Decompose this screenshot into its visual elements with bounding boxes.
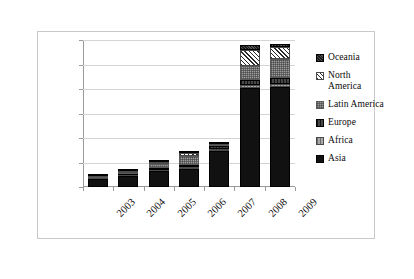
bar-2008: [240, 45, 260, 187]
bar-segment-north-america: [179, 153, 199, 156]
chart-figure: 010,00020,00030,00040,00050,00060,000200…: [0, 0, 414, 279]
bar-2009: [270, 44, 290, 187]
bar-segment-europe: [270, 78, 290, 83]
legend-item-europe[interactable]: Europe: [316, 117, 386, 128]
legend-item-asia[interactable]: Asia: [316, 153, 386, 164]
bar-segment-africa: [270, 84, 290, 87]
bar-2004: [118, 170, 138, 187]
x-axis-tick: [174, 187, 175, 191]
bar-segment-north-america: [240, 50, 260, 66]
bar-segment-latin-america: [179, 156, 199, 165]
bar-segment-asia: [88, 179, 108, 187]
europe-swatch: [316, 119, 324, 127]
bar-segment-oceania: [179, 151, 199, 153]
y-axis-tick: [79, 65, 83, 66]
bar-segment-oceania: [209, 142, 229, 144]
chart-legend: OceaniaNorth AmericaLatin AmericaEuropeA…: [316, 52, 386, 171]
bar-segment-europe: [179, 165, 199, 167]
asia-swatch: [316, 155, 324, 163]
bar-segment-europe: [209, 146, 229, 149]
legend-item-north-america[interactable]: North America: [316, 70, 386, 92]
bar-segment-asia: [179, 169, 199, 187]
bar-2003: [88, 176, 108, 187]
y-axis-tick: [79, 163, 83, 164]
bar-segment-latin-america: [270, 59, 290, 78]
gridline: [83, 138, 295, 139]
bar-segment-oceania: [118, 169, 138, 171]
x-axis-tick: [144, 187, 145, 191]
bar-segment-oceania: [88, 174, 108, 176]
bar-segment-latin-america: [240, 66, 260, 79]
legend-label: Europe: [328, 117, 356, 128]
legend-label: Oceania: [328, 52, 360, 63]
y-axis-tick: [79, 114, 83, 115]
bar-segment-europe: [149, 168, 169, 170]
x-axis-tick: [83, 187, 84, 191]
legend-label: Latin America: [328, 99, 384, 110]
y-axis-tick: [79, 40, 83, 41]
bar-segment-africa: [209, 149, 229, 151]
bar-segment-asia: [118, 176, 138, 187]
bar-segment-latin-america: [149, 164, 169, 168]
north-america-swatch: [316, 72, 324, 80]
bar-segment-asia: [240, 88, 260, 187]
bar-segment-north-america: [118, 171, 138, 173]
bar-segment-oceania: [149, 160, 169, 162]
legend-item-africa[interactable]: Africa: [316, 135, 386, 146]
gridline: [83, 65, 295, 66]
bar-segment-north-america: [149, 162, 169, 164]
legend-label: Africa: [328, 135, 353, 146]
y-axis-tick: [79, 89, 83, 90]
x-axis-tick: [204, 187, 205, 191]
legend-item-oceania[interactable]: Oceania: [316, 52, 386, 63]
bar-segment-asia: [270, 87, 290, 187]
gridline: [83, 114, 295, 115]
y-axis-tick: [79, 138, 83, 139]
bar-segment-oceania: [240, 45, 260, 50]
bar-segment-africa: [179, 167, 199, 169]
x-axis-tick: [234, 187, 235, 191]
gridline: [83, 40, 295, 41]
latin-america-swatch: [316, 101, 324, 109]
plot-area: 010,00020,00030,00040,00050,00060,000200…: [83, 40, 295, 187]
legend-label: North America: [328, 70, 384, 92]
bar-segment-oceania: [270, 44, 290, 48]
bar-segment-asia: [149, 171, 169, 187]
legend-label: Asia: [328, 153, 346, 164]
bar-2007: [209, 144, 229, 187]
bar-2005: [149, 161, 169, 187]
africa-swatch: [316, 137, 324, 145]
bar-segment-north-america: [270, 47, 290, 59]
bar-segment-latin-america: [209, 144, 229, 146]
x-axis-tick: [113, 187, 114, 191]
x-axis-tick: [295, 187, 296, 191]
bar-segment-africa: [240, 85, 260, 88]
bar-segment-asia: [209, 151, 229, 187]
x-axis-tick: [265, 187, 266, 191]
legend-item-latin-america[interactable]: Latin America: [316, 99, 386, 110]
bar-segment-europe: [240, 80, 260, 85]
bar-2006: [179, 152, 199, 187]
gridline: [83, 89, 295, 90]
oceania-swatch: [316, 54, 324, 62]
